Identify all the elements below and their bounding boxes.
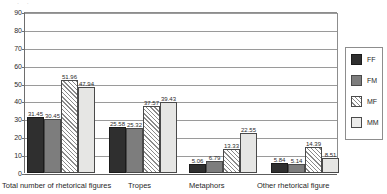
legend-swatch-FM xyxy=(351,75,362,86)
legend-swatch-MF xyxy=(351,96,362,107)
bar-wrap-FM-1: 25.32 xyxy=(126,12,143,173)
bar-value-label-FM-1: 25.32 xyxy=(127,122,142,128)
bar-MF-3[interactable]: 14.39 xyxy=(305,147,322,173)
bar-MM-3[interactable]: 8.51 xyxy=(322,158,339,173)
bar-value-label-FF-0: 31.45 xyxy=(28,111,43,117)
bar-chart: · · 9080706050403020100 31.4530.4551.964… xyxy=(0,0,387,194)
bar-value-label-FM-0: 30.45 xyxy=(45,113,60,119)
bar-FM-2[interactable]: 6.79 xyxy=(206,161,223,173)
legend-item-MM[interactable]: MM xyxy=(351,117,383,130)
chart-legend: FFFMMFMM xyxy=(345,47,383,140)
bar-FM-0[interactable]: 30.45 xyxy=(44,119,61,173)
bar-value-label-MM-1: 39.43 xyxy=(161,96,176,102)
x-axis-label-3: Other rhetorical figure xyxy=(257,181,330,190)
y-tick-label-90: 90 xyxy=(4,9,22,16)
bar-group-0: 31.4530.4551.9647.94 xyxy=(27,13,95,173)
cropped-text-artifact: · · xyxy=(17,0,57,7)
bar-FM-3[interactable]: 5.14 xyxy=(288,164,305,173)
y-tickmark-30 xyxy=(22,120,25,121)
legend-label-MF: MF xyxy=(367,98,377,105)
bar-FM-1[interactable]: 25.32 xyxy=(126,128,143,173)
bar-value-label-MF-1: 37.57 xyxy=(144,100,159,106)
y-tickmark-50 xyxy=(22,85,25,86)
y-tick-label-70: 70 xyxy=(4,44,22,51)
bar-wrap-FM-3: 5.14 xyxy=(288,12,305,173)
y-tickmark-90 xyxy=(22,13,25,14)
bar-MM-0[interactable]: 47.94 xyxy=(78,87,95,173)
bar-MF-2[interactable]: 13.33 xyxy=(223,149,240,173)
bar-FF-3[interactable]: 5.84 xyxy=(271,163,288,173)
bar-wrap-FM-0: 30.45 xyxy=(44,12,61,173)
bar-value-label-FF-2: 5.06 xyxy=(192,158,204,164)
bar-wrap-MF-2: 13.33 xyxy=(223,12,240,173)
bar-value-label-MM-2: 22.55 xyxy=(241,127,256,133)
bar-wrap-FM-2: 6.79 xyxy=(206,12,223,173)
bar-group-1: 25.5825.3237.5739.43 xyxy=(109,13,177,173)
y-tick-label-60: 60 xyxy=(4,62,22,69)
y-tick-label-40: 40 xyxy=(4,98,22,105)
y-tick-label-50: 50 xyxy=(4,80,22,87)
y-tickmark-80 xyxy=(22,31,25,32)
bar-wrap-MF-3: 14.39 xyxy=(305,12,322,173)
bar-wrap-FF-2: 5.06 xyxy=(189,12,206,173)
plot-area: 31.4530.4551.9647.9425.5825.3237.5739.43… xyxy=(24,12,337,173)
x-axis-label-0: Total number of rhetorical figures xyxy=(2,181,111,190)
bar-value-label-FM-3: 5.14 xyxy=(291,158,303,164)
legend-label-FM: FM xyxy=(367,77,377,84)
bar-wrap-MM-2: 22.55 xyxy=(240,12,257,173)
y-tickmark-40 xyxy=(22,102,25,103)
y-tick-label-30: 30 xyxy=(4,116,22,123)
bar-value-label-MF-3: 14.39 xyxy=(306,141,321,147)
bar-value-label-MF-0: 51.96 xyxy=(62,74,77,80)
y-tickmark-70 xyxy=(22,49,25,50)
legend-item-FF[interactable]: FF xyxy=(351,54,383,67)
bar-wrap-FF-1: 25.58 xyxy=(109,12,126,173)
bar-value-label-MF-2: 13.33 xyxy=(224,143,239,149)
legend-item-FM[interactable]: FM xyxy=(351,75,383,88)
bar-wrap-MF-1: 37.57 xyxy=(143,12,160,173)
y-tickmark-60 xyxy=(22,67,25,68)
bar-value-label-MM-3: 8.51 xyxy=(325,152,337,158)
legend-label-MM: MM xyxy=(367,119,379,126)
y-tick-label-0: 0 xyxy=(4,170,22,177)
bar-FF-1[interactable]: 25.58 xyxy=(109,127,126,173)
bar-MM-1[interactable]: 39.43 xyxy=(160,102,177,173)
bar-FF-0[interactable]: 31.45 xyxy=(27,117,44,173)
bar-wrap-MM-0: 47.94 xyxy=(78,12,95,173)
legend-swatch-FF xyxy=(351,54,362,65)
legend-swatch-MM xyxy=(351,117,362,128)
bar-value-label-FM-2: 6.79 xyxy=(209,155,221,161)
bar-value-label-FF-3: 5.84 xyxy=(274,157,286,163)
bar-FF-2[interactable]: 5.06 xyxy=(189,164,206,173)
y-tickmark-20 xyxy=(22,138,25,139)
bar-MF-0[interactable]: 51.96 xyxy=(61,80,78,173)
bar-value-label-MM-0: 47.94 xyxy=(79,81,94,87)
bar-group-3: 5.845.1414.398.51 xyxy=(271,13,339,173)
x-axis-labels: Total number of rhetorical figuresTropes… xyxy=(0,181,345,194)
x-axis-label-1: Tropes xyxy=(128,181,151,190)
bar-wrap-FF-0: 31.45 xyxy=(27,12,44,173)
y-tick-label-80: 80 xyxy=(4,26,22,33)
bar-wrap-FF-3: 5.84 xyxy=(271,12,288,173)
bar-wrap-MM-3: 8.51 xyxy=(322,12,339,173)
bar-MM-2[interactable]: 22.55 xyxy=(240,133,257,173)
legend-item-MF[interactable]: MF xyxy=(351,96,383,109)
bar-wrap-MF-0: 51.96 xyxy=(61,12,78,173)
y-tickmark-10 xyxy=(22,156,25,157)
bar-MF-1[interactable]: 37.57 xyxy=(143,106,160,173)
bar-wrap-MM-1: 39.43 xyxy=(160,12,177,173)
x-axis-label-2: Metaphors xyxy=(189,181,224,190)
bar-group-2: 5.066.7913.3322.55 xyxy=(189,13,257,173)
gridline-0 xyxy=(25,174,337,175)
y-tick-label-10: 10 xyxy=(4,152,22,159)
y-axis: 9080706050403020100 xyxy=(0,0,22,194)
y-tick-label-20: 20 xyxy=(4,134,22,141)
legend-label-FF: FF xyxy=(367,56,376,63)
bar-value-label-FF-1: 25.58 xyxy=(110,121,125,127)
y-tickmark-0 xyxy=(22,174,25,175)
